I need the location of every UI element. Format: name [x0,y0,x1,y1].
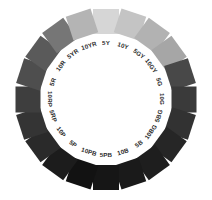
hue-label: 10PB [80,147,97,158]
hue-label: 5RP [48,109,58,123]
hue-label: 5YR [66,48,80,60]
hue-label: 10R [55,60,67,73]
hue-label: 5BG [154,109,164,123]
hue-label: 10B [117,147,130,157]
hue-label: 5GY [132,47,146,59]
munsell-hue-circle-figure: 5Y10Y5GY10GY5G10G5BG10BG5B10B5PB10PB5P10… [0,0,212,200]
hue-label: 5G [155,77,164,87]
hue-label: 10BG [144,123,159,140]
hue-label: 5P [68,140,78,150]
hue-label: 5PB [100,152,112,158]
hue-label: 10YR [80,40,97,51]
hue-label: 5B [134,139,144,149]
hue-label: 10Y [117,41,130,50]
hue-label: 10GY [144,58,159,75]
hue-label: 5R [49,77,57,87]
hue-label: 10G [159,93,165,105]
hue-label: 5Y [102,40,110,46]
hue-label: 10RP [47,91,53,107]
hue-label: 10P [55,126,67,139]
hue-wheel: 5Y10Y5GY10GY5G10G5BG10BG5B10B5PB10PB5P10… [0,0,212,200]
